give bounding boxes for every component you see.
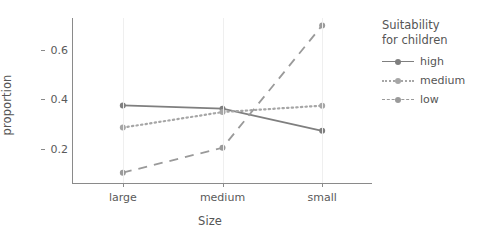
y-tick-label: 0.2 (34, 142, 68, 155)
legend: Suitabilityfor children highmediumlow (382, 18, 477, 109)
legend-item-low[interactable]: low (382, 90, 477, 109)
gridline-vertical (223, 18, 224, 183)
legend-dot-swatch (395, 78, 401, 84)
y-tick-label: 0.6 (34, 44, 68, 57)
legend-title: Suitabilityfor children (382, 18, 477, 48)
x-tick-mark (223, 183, 224, 187)
gridline-vertical (322, 18, 323, 183)
legend-label: low (414, 93, 439, 106)
y-axis-title: proportion (0, 50, 14, 160)
legend-key-high-icon (382, 55, 414, 69)
y-tick-label: 0.4 (34, 93, 68, 106)
legend-item-high[interactable]: high (382, 52, 477, 71)
x-tick-label: small (308, 191, 337, 204)
x-tick-mark (322, 183, 323, 187)
legend-title-line: Suitability (382, 18, 477, 33)
legend-label: high (414, 55, 444, 68)
legend-item-medium[interactable]: medium (382, 71, 477, 90)
y-tick-mark (41, 149, 45, 150)
line-chart: proportion 0.20.40.6 largemediumsmall Si… (0, 0, 477, 241)
x-tick-label: large (109, 191, 137, 204)
x-axis-title: Size (60, 214, 360, 228)
legend-dot-swatch (395, 97, 401, 103)
legend-label: medium (414, 74, 465, 87)
legend-items: highmediumlow (382, 52, 477, 109)
y-axis-tick-labels: 0.20.40.6 (34, 0, 68, 241)
x-tick-mark (123, 183, 124, 187)
legend-dot-swatch (395, 59, 401, 65)
y-tick-mark (41, 50, 45, 51)
legend-key-medium-icon (382, 74, 414, 88)
gridline-vertical (123, 18, 124, 183)
x-tick-label: medium (200, 191, 245, 204)
legend-key-low-icon (382, 93, 414, 107)
legend-title-line: for children (382, 33, 477, 48)
y-tick-mark (41, 99, 45, 100)
